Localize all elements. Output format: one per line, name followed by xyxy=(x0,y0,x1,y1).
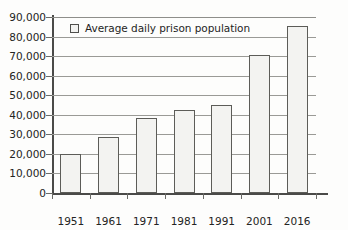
legend-swatch-icon xyxy=(70,24,79,33)
legend-label: Average daily prison population xyxy=(85,22,250,34)
y-axis-tick-label: 0 xyxy=(0,187,46,199)
y-axis-tick-label: 20,000 xyxy=(0,148,46,160)
y-axis-tick-label: 50,000 xyxy=(0,89,46,101)
bar xyxy=(174,110,195,193)
y-axis-tick-label: 30,000 xyxy=(0,128,46,140)
x-axis-tick xyxy=(127,193,128,199)
x-axis-tick-label: 2016 xyxy=(274,215,320,227)
y-axis-tick xyxy=(46,134,52,135)
y-axis-tick-label: 60,000 xyxy=(0,70,46,82)
bar xyxy=(98,137,119,193)
y-axis-tick xyxy=(46,76,52,77)
x-axis-line xyxy=(52,193,328,195)
y-axis-tick xyxy=(46,154,52,155)
bar xyxy=(211,105,232,193)
y-axis-tick-label: 10,000 xyxy=(0,167,46,179)
y-axis-tick-label: 40,000 xyxy=(0,109,46,121)
bar xyxy=(249,55,270,193)
y-axis-tick-label: 80,000 xyxy=(0,31,46,43)
x-axis-tick xyxy=(52,193,53,199)
y-axis-tick-label: 70,000 xyxy=(0,50,46,62)
y-axis-tick xyxy=(46,173,52,174)
bar-chart-figure: 010,00020,00030,00040,00050,00060,00070,… xyxy=(0,0,348,230)
x-axis-tick xyxy=(316,193,317,199)
x-axis-tick xyxy=(203,193,204,199)
y-axis-tick-label: 90,000 xyxy=(0,11,46,23)
y-axis-tick xyxy=(46,95,52,96)
bar xyxy=(60,154,81,193)
x-axis-tick xyxy=(241,193,242,199)
chart-legend: Average daily prison population xyxy=(66,20,258,36)
x-axis-tick xyxy=(90,193,91,199)
bar xyxy=(136,118,157,193)
y-axis-tick xyxy=(46,115,52,116)
x-axis-tick xyxy=(165,193,166,199)
gridline xyxy=(52,95,316,96)
x-axis-tick xyxy=(278,193,279,199)
gridline xyxy=(52,76,316,77)
